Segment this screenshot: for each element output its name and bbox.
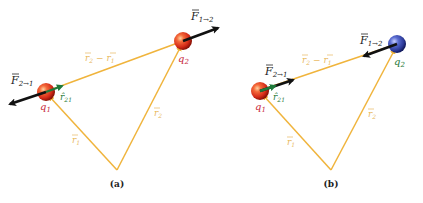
label-r2-minus-r1: r2 − r1	[85, 53, 116, 64]
label-r1: r1	[287, 137, 295, 148]
label-r2: r2	[368, 109, 376, 120]
svg-text:r2: r2	[154, 108, 162, 119]
label-q2: q2	[394, 56, 405, 69]
label-unit-vector: r̂21	[60, 92, 72, 103]
panel-a: F2→1 F1→2 q1 q2 r̂21 r2 − r1 r1 r2 (a)	[10, 10, 218, 189]
label-q1: q1	[40, 101, 51, 114]
svg-text:r1: r1	[287, 137, 295, 148]
caption-a: (a)	[110, 179, 124, 189]
svg-text:r2 − r1: r2 − r1	[85, 53, 115, 64]
label-r1: r1	[72, 135, 80, 146]
label-force-1-on-2: F1→2	[190, 10, 214, 24]
vector-r2	[331, 49, 395, 170]
label-r2-minus-r1: r2 − r1	[302, 55, 333, 66]
coulomb-force-diagram: F2→1 F1→2 q1 q2 r̂21 r2 − r1 r1 r2 (a)	[0, 0, 423, 203]
svg-text:r2 − r1: r2 − r1	[302, 55, 332, 66]
label-unit-vector: r̂21	[273, 92, 285, 103]
svg-text:F2→1: F2→1	[10, 74, 33, 88]
panel-b: F2→1 F1→2 q1 q2 r̂21 r2 − r1 r1 r2 (b)	[251, 34, 406, 189]
label-force-1-on-2: F1→2	[359, 34, 383, 48]
label-force-2-on-1: F2→1	[264, 65, 287, 79]
vector-r2	[117, 46, 181, 170]
label-r2: r2	[154, 108, 162, 119]
caption-b: (b)	[324, 179, 339, 189]
label-force-2-on-1: F2→1	[10, 74, 33, 88]
svg-text:r2: r2	[368, 109, 376, 120]
vector-r1	[263, 95, 331, 170]
label-q1: q1	[255, 101, 266, 114]
vector-r1	[49, 96, 117, 170]
svg-text:F1→2: F1→2	[190, 10, 214, 24]
label-q2: q2	[178, 53, 189, 66]
vector-r2-minus-r1	[50, 41, 183, 90]
svg-text:F1→2: F1→2	[359, 34, 383, 48]
svg-text:r1: r1	[72, 135, 80, 146]
svg-text:F2→1: F2→1	[264, 65, 287, 79]
